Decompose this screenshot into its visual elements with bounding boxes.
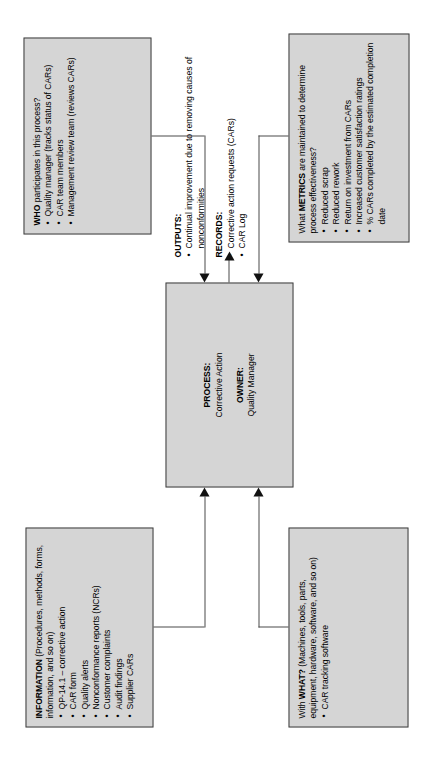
diagram-page: WHO participates in this process? Qualit… [0,0,428,763]
information-heading: INFORMATION (Procedures, methods, forms,… [33,536,56,718]
arrow-with-what-to-process [253,487,263,496]
arrow-who-to-process [199,273,209,282]
list-item: CAR tracking software [319,536,330,718]
connector-with-what-vertical [258,626,288,627]
outputs-records-text: OUTPUTS: Continual improvement due to re… [172,27,247,257]
process-group: PROCESS: Corrective Action [201,352,224,417]
metrics-heading: What METRICS are maintained to determine… [296,42,319,233]
list-item: Reduced scrap [319,42,330,233]
list-item: Corrective action requests (CARs) [225,27,236,257]
information-box: INFORMATION (Procedures, methods, forms,… [25,527,153,727]
list-item: Quality manager (tracks status of CARs) [42,46,53,225]
list-item: Customer complaints [101,536,112,718]
owner-label: OWNER: [234,353,245,416]
list-item: Return on investment from CARs [342,42,353,233]
records-label: RECORDS: [213,27,224,257]
list-item: CAR Log [236,27,247,257]
with-what-heading: With WHAT? (Machines, tools, parts, equi… [296,536,319,718]
arrow-metrics-to-process [253,273,263,282]
connector-information-horizontal [204,496,205,627]
arrow-process-to-outputs [224,251,234,260]
who-heading: WHO participates in this process? [31,46,42,225]
metrics-box: What METRICS are maintained to determine… [288,33,409,242]
connector-with-what-horizontal [258,496,259,627]
list-item: Nonconformance reports (NCRs) [90,536,101,718]
information-list: QP-14.1 – corrective action CAR form Qua… [56,536,136,718]
list-item: Reduced rework [330,42,341,233]
list-item: % CARs completed by the estimated comple… [364,42,387,233]
process-label: PROCESS: [201,352,212,417]
owner-value: Quality Manager [245,353,256,416]
with-what-box: With WHAT? (Machines, tools, parts, equi… [288,527,408,727]
list-item: CAR form [67,536,78,718]
connector-information-vertical [153,626,204,627]
connector-metrics-vertical [258,135,288,136]
who-list: Quality manager (tracks status of CARs) … [42,46,76,225]
diagram-canvas: WHO participates in this process? Qualit… [0,0,428,763]
outputs-list: Continual improvement due to removing ca… [183,27,206,257]
list-item: Supplier CARs [124,536,135,718]
owner-group: OWNER: Quality Manager [234,353,257,416]
process-value: Corrective Action [213,352,224,417]
list-item: Quality alerts [79,536,90,718]
connector-who-horizontal [204,135,205,273]
list-item: QP-14.1 – corrective action [56,536,67,718]
arrow-information-to-process [199,487,209,496]
who-participates-box: WHO participates in this process? Qualit… [23,37,151,234]
list-item: Continual improvement due to removing ca… [183,27,206,257]
connector-who-vertical [151,135,204,136]
outputs-label: OUTPUTS: [172,27,183,257]
list-item: Increased customer satisfaction ratings [353,42,364,233]
process-box: PROCESS: Corrective Action OWNER: Qualit… [165,282,293,487]
list-item: CAR team members [54,46,65,225]
connector-metrics-horizontal [258,135,259,273]
list-item: Audit findings [113,536,124,718]
records-list: Corrective action requests (CARs) CAR Lo… [225,27,248,257]
with-what-list: CAR tracking software [319,536,330,718]
list-item: Management review team (reviews CARs) [65,46,76,225]
metrics-list: Reduced scrap Reduced rework Return on i… [319,42,387,233]
connector-process-to-outputs [228,258,229,282]
